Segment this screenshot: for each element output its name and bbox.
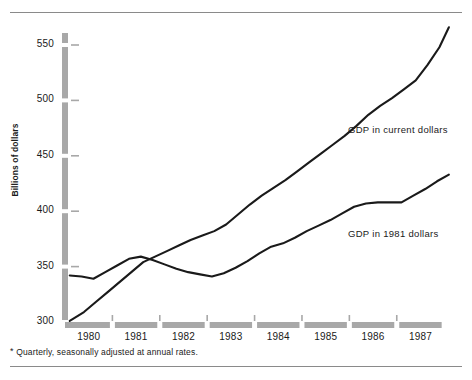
footnote-marker: * xyxy=(10,346,14,356)
y-tick-label: 450 xyxy=(20,149,54,160)
y-axis-segment xyxy=(62,102,68,153)
chart-figure: Billions of dollars 300350400450500550 1… xyxy=(0,0,472,380)
x-tick-label: 1982 xyxy=(156,331,210,342)
x-axis-segment xyxy=(352,322,394,328)
data-series-group xyxy=(70,27,449,321)
x-axis-segment xyxy=(304,322,346,328)
series-label-1981-dollars: GDP in 1981 dollars xyxy=(348,228,439,239)
x-axis-segment xyxy=(162,322,204,328)
series-label-current-dollars: GDP in current dollars xyxy=(348,124,448,135)
x-tick-label: 1985 xyxy=(299,331,353,342)
y-tick-label: 550 xyxy=(20,38,54,49)
y-axis-segment xyxy=(62,158,68,209)
x-axis-segment xyxy=(115,322,157,328)
x-axis xyxy=(65,315,442,328)
x-axis-segment xyxy=(399,322,441,328)
y-axis-segment xyxy=(62,213,68,264)
y-tick-label: 300 xyxy=(20,315,54,326)
series-line-1 xyxy=(70,175,449,279)
plot-area xyxy=(0,0,472,380)
series-line-0 xyxy=(70,27,449,321)
x-tick-label: 1981 xyxy=(109,331,163,342)
x-tick-label: 1987 xyxy=(393,331,447,342)
y-tick-label: 500 xyxy=(20,93,54,104)
y-tick-label: 400 xyxy=(20,204,54,215)
x-axis-segment xyxy=(210,322,252,328)
x-axis-segment xyxy=(65,322,110,328)
x-tick-label: 1980 xyxy=(62,331,116,342)
y-axis-segment xyxy=(62,47,68,98)
x-tick-label: 1986 xyxy=(346,331,400,342)
y-tick-label: 350 xyxy=(20,260,54,271)
y-axis-segment xyxy=(62,33,68,43)
x-tick-label: 1983 xyxy=(204,331,258,342)
chart-footnote: * Quarterly, seasonally adjusted at annu… xyxy=(10,347,198,357)
footnote-text: Quarterly, seasonally adjusted at annual… xyxy=(16,347,198,357)
y-axis-segment xyxy=(62,269,68,320)
x-axis-segment xyxy=(257,322,299,328)
x-tick-label: 1984 xyxy=(251,331,305,342)
